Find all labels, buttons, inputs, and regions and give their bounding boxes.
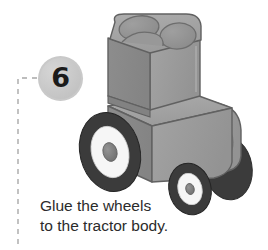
caption-line-1: Glue the wheels — [40, 196, 240, 216]
instruction-caption: Glue the wheels to the tractor body. — [40, 196, 240, 236]
caption-line-2: to the tractor body. — [40, 216, 240, 236]
instruction-step-card: 6 — [0, 0, 268, 250]
